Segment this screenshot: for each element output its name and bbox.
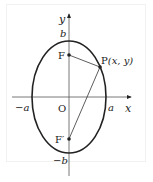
vertex-b-label: b [60,28,66,39]
x-axis-label: x [125,102,132,115]
vertex-neg-b-label: −b [53,155,68,166]
segment-pf-prime [69,67,100,139]
vertex-a-label: a [108,102,114,113]
focus-f-prime-dot [67,137,71,141]
point-p-label: P(x, y) [101,55,133,66]
point-p-coords: (x, y) [108,55,134,66]
focus-f-label: F [58,50,65,61]
y-axis-label: y [58,13,66,26]
focus-f-dot [67,53,71,57]
ellipse-diagram: y x O b −b −a a F F′ P(x, y) [0,0,153,182]
origin-label: O [58,103,66,114]
vertex-neg-a-label: −a [15,102,29,113]
focus-f-prime-label: F′ [55,134,65,145]
